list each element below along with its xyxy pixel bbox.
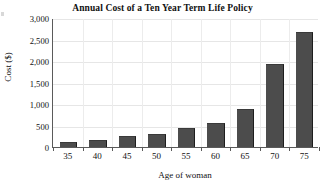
gridline-vertical	[142, 19, 143, 147]
x-tick-label: 75	[300, 151, 309, 161]
x-tick-label: 40	[93, 151, 102, 161]
bar	[266, 64, 284, 147]
x-tick-mark	[171, 147, 172, 151]
gridline-vertical	[112, 19, 113, 147]
y-tick-label: 2,500	[30, 36, 49, 45]
bar	[178, 128, 196, 147]
y-tick-label: 500	[36, 122, 49, 131]
x-tick-label: 55	[182, 151, 191, 161]
gridline-vertical	[289, 19, 290, 147]
y-tick-label: 1,500	[30, 79, 49, 88]
x-tick-label: 65	[241, 151, 250, 161]
y-tick-label: 1,000	[30, 101, 49, 110]
gridline-horizontal	[53, 19, 318, 20]
x-tick-label: 70	[270, 151, 279, 161]
chart-title: Annual Cost of a Ten Year Term Life Poli…	[0, 2, 325, 14]
x-tick-mark	[201, 147, 202, 151]
gridline-horizontal	[53, 41, 318, 42]
bar	[60, 142, 78, 147]
x-tick-mark	[289, 147, 290, 151]
plot-area: 05001,0001,5002,0002,5003,000 3540455055…	[52, 19, 318, 148]
gridline-vertical	[230, 19, 231, 147]
x-tick-mark	[142, 147, 143, 151]
gridline-vertical	[201, 19, 202, 147]
y-tick-label: 3,000	[30, 15, 49, 24]
gridline-vertical	[260, 19, 261, 147]
bar	[148, 134, 166, 147]
y-tick-label: 0	[45, 144, 49, 153]
x-tick-label: 35	[63, 151, 72, 161]
bar	[119, 136, 137, 147]
x-tick-mark	[260, 147, 261, 151]
y-axis-label: Cost ($)	[3, 37, 13, 97]
y-tick-label: 2,000	[30, 58, 49, 67]
x-tick-label: 60	[211, 151, 220, 161]
gridline-vertical	[171, 19, 172, 147]
x-tick-label: 45	[122, 151, 131, 161]
gridline-vertical	[83, 19, 84, 147]
bar-chart-figure: Annual Cost of a Ten Year Term Life Poli…	[0, 0, 325, 186]
x-tick-mark	[319, 147, 320, 151]
x-tick-mark	[230, 147, 231, 151]
bar	[296, 32, 314, 147]
bar	[89, 140, 107, 147]
x-tick-label: 50	[152, 151, 161, 161]
x-tick-mark	[83, 147, 84, 151]
bar	[207, 123, 225, 147]
gridline-horizontal	[53, 62, 318, 63]
x-axis-label: Age of woman	[52, 170, 318, 181]
x-tick-mark	[112, 147, 113, 151]
x-tick-mark	[53, 147, 54, 151]
bar	[237, 109, 255, 147]
